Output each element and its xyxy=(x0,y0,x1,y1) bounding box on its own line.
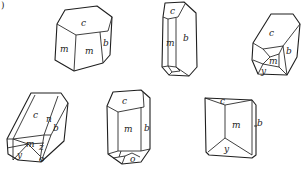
face-label-m: m xyxy=(85,46,94,56)
face-label-b: b xyxy=(144,123,150,133)
face-label-m: m xyxy=(269,56,278,66)
face-label-y: y xyxy=(16,150,23,160)
crystal-3: c m b y xyxy=(252,14,300,76)
crystal-5: c m b o xyxy=(107,90,150,164)
face-label-m: m xyxy=(166,38,175,48)
face-label-o: o xyxy=(39,154,45,164)
face-label-c: c xyxy=(170,6,175,16)
face-label-c: c xyxy=(220,96,225,106)
face-label-b: b xyxy=(103,38,109,48)
crystal-4: c n b m z y o xyxy=(7,93,68,164)
crystal-habits-figure: ) c m m b c m b c m b y xyxy=(0,0,303,170)
crystal-drawings: ) c m m b c m b c m b y xyxy=(0,0,303,170)
panel-label: ) xyxy=(1,0,5,10)
crystal-2: c m b xyxy=(162,2,197,76)
face-label-b: b xyxy=(286,46,292,56)
face-label-o: o xyxy=(130,154,136,164)
face-label-n: n xyxy=(46,114,52,124)
face-label-z: z xyxy=(38,142,44,152)
crystal-1: c m m b xyxy=(55,6,112,71)
face-label-c: c xyxy=(122,96,127,106)
face-label-y: y xyxy=(223,144,230,154)
face-label-m: m xyxy=(124,124,133,134)
face-label-c: c xyxy=(269,28,274,38)
face-label-y: y xyxy=(260,66,267,76)
face-label-b: b xyxy=(257,118,263,128)
face-label-m: m xyxy=(26,139,35,149)
face-label-b: b xyxy=(183,33,189,43)
face-label-m: m xyxy=(232,120,241,130)
face-label-c: c xyxy=(33,110,38,120)
face-label-c: c xyxy=(81,18,86,28)
crystal-6: c m b y xyxy=(205,96,263,158)
face-label-m: m xyxy=(60,44,69,54)
face-label-b: b xyxy=(53,123,59,133)
